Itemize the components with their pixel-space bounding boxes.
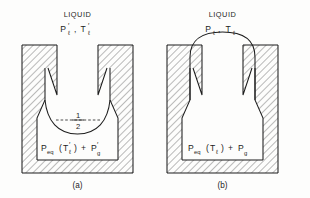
cavity-pressure-arg-subscript-b: ℓ [216,149,218,155]
panel-b: LIQUID P ℓ , T ℓ P eq ( T ℓ ) + P g (b) [155,0,310,198]
cavity-pressure-gas-subscript-a: g [97,150,100,156]
panel-caption-a: (a) [72,181,82,190]
cavity-pressure-lead-subscript-b: eq [194,149,201,155]
panel-a: 1 2 LIQUID P ′ ℓ , T ′ ℓ P eq ( T ′ ℓ ) … [0,0,155,198]
cavity-pressure-lead-subscript-a: eq [47,149,54,155]
liquid-temperature-symbol-a: T [80,24,86,34]
liquid-label-b: LIQUID [209,10,237,19]
liquid-label-a: LIQUID [64,10,92,19]
figure-root: 1 2 LIQUID P ′ ℓ , T ′ ℓ P eq ( T ′ ℓ ) … [0,0,310,198]
liquid-state-separator-a: , [74,24,76,34]
cavity-pressure-operator-b: + [228,143,233,153]
liquid-temperature-subscript-a: ℓ [88,30,90,36]
liquid-state-separator-b: , [218,24,220,34]
cavity-pressure-arg-subscript-a: ℓ [69,149,71,155]
liquid-pressure-subscript-b: ℓ [213,30,215,36]
cavity-pressure-arg-open-a: ( [59,143,62,153]
panel-caption-b: (b) [217,181,227,190]
cavity-pressure-gas-subscript-b: g [244,150,247,156]
liquid-temperature-subscript-b: ℓ [233,30,235,36]
annotation-denominator-a: 2 [76,122,80,131]
liquid-temperature-symbol-b: T [225,24,231,34]
annotation-numerator-a: 1 [76,111,80,120]
cavity-pressure-arg-close-b: ) [221,143,224,153]
liquid-state-a: P ′ ℓ , T ′ ℓ [60,22,90,36]
cavity-pressure-arg-open-b: ( [206,143,209,153]
cavity-pressure-arg-close-a: ) [74,143,77,153]
liquid-pressure-symbol-a: P [60,24,66,34]
cavity-pressure-operator-a: + [81,143,86,153]
substrate-hatching-a [0,0,155,198]
liquid-pressure-symbol-b: P [205,24,211,34]
liquid-pressure-subscript-a: ℓ [68,30,70,36]
solid-substrate-a [0,0,155,198]
